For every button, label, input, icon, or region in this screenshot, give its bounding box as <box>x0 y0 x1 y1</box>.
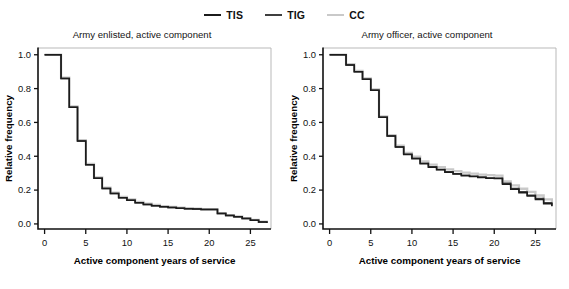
y-tick-label: 0.2 <box>18 184 31 195</box>
y-tick-label: 0.4 <box>18 151 31 162</box>
plot-frame <box>323 48 556 229</box>
x-tick-label: 0 <box>327 237 332 248</box>
line-swatch-icon <box>327 14 344 16</box>
chart-panel-officer: Army officer, active component 0.00.20.4… <box>285 24 569 289</box>
y-tick-label: 0.0 <box>18 218 31 229</box>
series-line-tis <box>330 55 552 206</box>
line-swatch-icon <box>204 14 221 16</box>
x-axis-title: Active component years of service <box>74 255 236 266</box>
x-tick-label: 15 <box>163 237 173 248</box>
y-tick-label: 0.4 <box>303 151 316 162</box>
y-axis-title: Relative frequency <box>288 94 299 182</box>
x-tick-label: 25 <box>530 237 540 248</box>
y-tick-label: 0.0 <box>303 218 316 229</box>
legend-entry-cc: CC <box>327 10 365 21</box>
plot-area-officer: 0.00.20.40.60.81.00510152025Active compo… <box>285 24 569 289</box>
legend-label-tis: TIS <box>226 10 243 21</box>
x-tick-label: 5 <box>83 237 88 248</box>
y-tick-label: 0.6 <box>18 117 31 128</box>
legend-entry-tis: TIS <box>204 10 243 21</box>
x-tick-label: 15 <box>448 237 458 248</box>
series-line-tis <box>45 55 267 223</box>
y-tick-label: 1.0 <box>18 49 31 60</box>
y-tick-label: 0.8 <box>303 83 316 94</box>
axis-spines <box>323 48 556 230</box>
y-axis-title: Relative frequency <box>3 94 14 182</box>
x-tick-label: 0 <box>42 237 47 248</box>
legend-entry-tig: TIG <box>265 10 305 21</box>
chart-legend: TIS TIG CC <box>0 6 569 24</box>
y-tick-label: 0.8 <box>18 83 31 94</box>
x-tick-label: 5 <box>368 237 373 248</box>
legend-label-cc: CC <box>349 10 365 21</box>
x-tick-label: 25 <box>245 237 255 248</box>
y-tick-label: 1.0 <box>303 49 316 60</box>
plot-area-enlisted: 0.00.20.40.60.81.00510152025Active compo… <box>0 24 284 289</box>
y-tick-label: 0.6 <box>303 117 316 128</box>
x-tick-label: 20 <box>489 237 499 248</box>
x-tick-label: 10 <box>407 237 417 248</box>
x-axis-title: Active component years of service <box>359 255 521 266</box>
line-swatch-icon <box>265 14 282 16</box>
x-tick-label: 20 <box>204 237 214 248</box>
plot-frame <box>38 48 271 229</box>
x-tick-label: 10 <box>122 237 132 248</box>
legend-label-tig: TIG <box>287 10 305 21</box>
chart-panel-enlisted: Army enlisted, active component 0.00.20.… <box>0 24 284 289</box>
axis-spines <box>38 48 271 230</box>
y-tick-label: 0.2 <box>303 184 316 195</box>
